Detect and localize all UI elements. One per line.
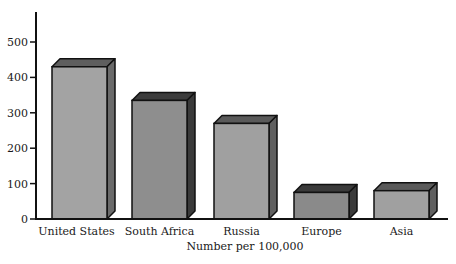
bar-south-africa <box>132 92 195 219</box>
y-tick-label: 500 <box>7 36 28 49</box>
bar-top-face <box>214 115 277 123</box>
x-category-label: Asia <box>389 225 414 238</box>
bar-front-face <box>214 123 269 219</box>
bar-top-face <box>52 59 115 67</box>
x-category-label: Russia <box>223 225 260 238</box>
bar-top-face <box>374 183 437 191</box>
bar-united-states <box>52 59 115 219</box>
bars <box>52 59 437 219</box>
x-axis-labels: United StatesSouth AfricaRussiaEuropeAsi… <box>38 225 413 238</box>
bar-side-face <box>187 92 195 219</box>
y-tick-label: 400 <box>7 71 28 84</box>
y-tick-label: 200 <box>7 142 28 155</box>
y-tick-label: 0 <box>21 213 28 226</box>
x-axis-title: Number per 100,000 <box>186 240 303 253</box>
bar-front-face <box>132 100 187 219</box>
bar-europe <box>294 184 357 219</box>
bar-side-face <box>269 115 277 219</box>
x-category-label: Europe <box>301 225 342 238</box>
bar-front-face <box>374 191 429 219</box>
x-category-label: South Africa <box>125 225 195 238</box>
bar-front-face <box>52 67 107 219</box>
bar-chart: 0100200300400500 United StatesSouth Afri… <box>0 0 456 264</box>
bar-side-face <box>107 59 115 219</box>
bar-front-face <box>294 192 349 219</box>
y-tick-label: 300 <box>7 107 28 120</box>
y-tick-label: 100 <box>7 178 28 191</box>
bar-asia <box>374 183 437 219</box>
bar-top-face <box>132 92 195 100</box>
x-category-label: United States <box>38 225 115 238</box>
bar-top-face <box>294 184 357 192</box>
bar-russia <box>214 115 277 219</box>
y-axis: 0100200300400500 <box>7 36 36 226</box>
